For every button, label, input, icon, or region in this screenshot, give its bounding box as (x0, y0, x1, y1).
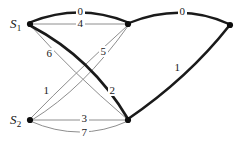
edge-s2-botmid-7 (30, 121, 128, 132)
edge-weight-botmid-right-1: 1 (173, 62, 182, 73)
graph-figure: S1 S2 0 4 0 1 2 6 1 5 3 7 (0, 0, 240, 146)
node-label-s1-text: S (10, 16, 17, 31)
node-dot-bot-mid[interactable] (125, 117, 131, 123)
edge-weight-s2-topmid-5: 5 (99, 46, 108, 57)
edge-weight-s1-botmid-2: 2 (108, 85, 117, 96)
edge-weight-s2-botmid-7: 7 (80, 127, 89, 138)
node-label-s2: S2 (10, 113, 21, 129)
edge-s1-botmid-2 (31, 26, 128, 119)
edge-weight-s1-topmid-4: 4 (76, 18, 85, 29)
thin-edge-group (30, 24, 128, 132)
node-label-s2-text: S (10, 112, 17, 127)
node-dot-s1[interactable] (27, 21, 33, 27)
node-label-s2-subscript: 2 (17, 119, 22, 129)
edge-weight-s2-topmid-1: 1 (42, 85, 51, 96)
node-dot-s2[interactable] (27, 117, 33, 123)
edge-s2-topmid-1 (31, 26, 127, 118)
edge-weight-s1-topmid-0: 0 (76, 6, 85, 17)
node-dot-top-mid[interactable] (125, 21, 131, 27)
node-dot-group (27, 21, 233, 123)
graph-canvas (0, 0, 240, 146)
edge-weight-s1-botmid-6: 6 (45, 48, 54, 59)
node-dot-right[interactable] (227, 22, 233, 28)
node-label-s1-subscript: 1 (17, 23, 22, 33)
edge-weight-topmid-right-0: 0 (178, 6, 187, 17)
thick-edge-group (31, 13, 229, 120)
edge-s1-botmid-6 (31, 26, 127, 119)
edge-weight-s2-botmid-3: 3 (80, 113, 89, 124)
edge-s2-topmid-5 (32, 26, 128, 120)
node-label-s1: S1 (10, 17, 21, 33)
